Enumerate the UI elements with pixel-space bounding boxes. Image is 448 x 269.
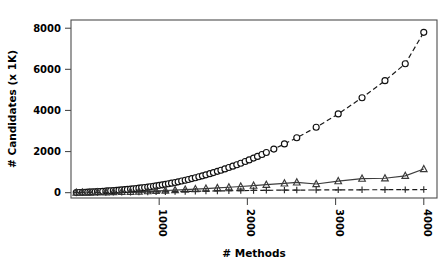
data-point-circle <box>281 141 287 147</box>
x-axis-tick-labels: 1000200030004000 <box>157 209 433 237</box>
data-point-plus <box>421 186 427 192</box>
data-point-circle <box>421 29 427 35</box>
x-tick-label: 1000 <box>157 209 168 237</box>
series-lines <box>76 32 423 192</box>
data-point-plus <box>359 187 365 193</box>
plot-frame <box>71 20 437 198</box>
data-point-plus <box>172 188 178 194</box>
data-point-plus <box>382 186 388 192</box>
y-axis-title: # Candidates (x 1K) <box>6 50 18 168</box>
y-tick-label: 6000 <box>33 64 61 75</box>
series-markers <box>73 29 427 196</box>
y-axis-ticks <box>65 28 71 192</box>
chart-figure: 02000400060008000 1000200030004000 # Met… <box>0 0 448 269</box>
data-point-plus <box>238 187 244 193</box>
y-tick-label: 8000 <box>33 23 61 34</box>
data-point-circle <box>335 111 341 117</box>
x-tick-label: 2000 <box>245 209 256 237</box>
y-tick-label: 4000 <box>33 105 61 116</box>
x-axis-title: # Methods <box>222 247 286 259</box>
y-tick-label: 2000 <box>33 146 61 157</box>
data-point-circle <box>402 61 408 67</box>
x-tick-label: 3000 <box>334 209 345 237</box>
data-point-circle <box>382 78 388 84</box>
data-point-triangle <box>420 165 427 171</box>
data-point-plus <box>294 187 300 193</box>
data-point-plus <box>313 187 319 193</box>
data-point-circle <box>359 95 365 101</box>
data-point-plus <box>281 187 287 193</box>
y-axis-tick-labels: 02000400060008000 <box>33 23 61 198</box>
y-tick-label: 0 <box>54 187 61 198</box>
data-point-circle <box>263 150 269 156</box>
data-point-circle <box>313 124 319 130</box>
x-tick-label: 4000 <box>422 209 433 237</box>
data-point-plus <box>162 189 168 195</box>
data-point-plus <box>335 187 341 193</box>
data-point-plus <box>402 186 408 192</box>
series-line-circle <box>76 32 423 192</box>
x-axis-ticks <box>159 198 424 205</box>
data-point-circle <box>271 146 277 152</box>
data-point-plus <box>263 187 269 193</box>
data-point-circle <box>294 135 300 141</box>
chart-canvas: 02000400060008000 1000200030004000 # Met… <box>0 0 448 269</box>
